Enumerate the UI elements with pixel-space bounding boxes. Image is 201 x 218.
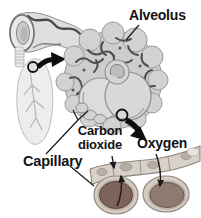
red-blood-cell-left [100, 182, 133, 209]
magnifier-circle-lung-icon [28, 62, 38, 72]
red-blood-cell-right [150, 183, 184, 208]
red-blood-cells-illustration [94, 176, 189, 214]
diagram-figure: Alveolus Carbon dioxide Oxygen Capillary [0, 0, 201, 218]
capillary-label: Capillary [23, 154, 82, 168]
diagram-artwork [0, 0, 201, 218]
oxygen-label: Oxygen [137, 136, 187, 150]
alveolus-label: Alveolus [129, 8, 186, 22]
carbon-dioxide-label: Carbon dioxide [73, 124, 127, 151]
